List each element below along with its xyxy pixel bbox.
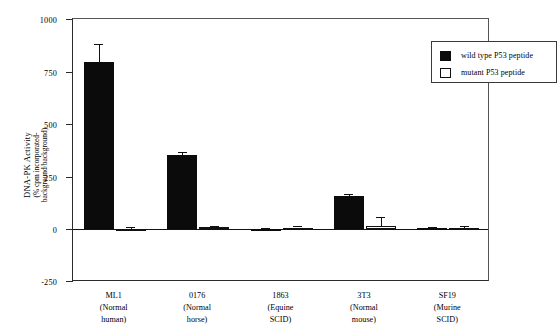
bar-0176-mutant [199, 227, 229, 229]
bar-3T3-mutant [366, 226, 396, 229]
y-tick-750: 750 [66, 72, 73, 73]
y-tick-minus250: -250 [66, 281, 73, 282]
y-tick-250: 250 [66, 177, 73, 178]
legend: wild type P53 peptide mutant P53 peptide [431, 41, 557, 83]
plot-area: 1000 750 500 250 0 -250 wild type P53 pe… [72, 18, 489, 281]
y-tick-label-minus250: -250 [41, 277, 57, 286]
bar-ML1-wild-type [84, 62, 114, 229]
x-label-name: ML1 [72, 290, 155, 302]
error-cap-0176-mutant [210, 226, 219, 227]
bar-0176-wild-type [167, 155, 197, 230]
x-label-line3: SCID) [406, 314, 489, 326]
x-label-name: 3T3 [322, 290, 405, 302]
error-cap-3T3-mutant [376, 217, 385, 218]
y-axis-title: DNA-PK Activity (% cpm incorporated- bac… [14, 95, 58, 235]
bar-3T3-wild-type [334, 196, 364, 230]
x-label-line3: human) [72, 314, 155, 326]
legend-item-wild-type: wild type P53 peptide [440, 49, 533, 62]
open-square-icon [440, 68, 451, 78]
error-cap-SF19-mutant [460, 226, 469, 227]
y-tick-label-500: 500 [44, 121, 57, 130]
error-cap-ML1-wild-type [94, 44, 103, 45]
x-label-line2: (Normal [322, 302, 405, 314]
legend-item-mutant: mutant P53 peptide [440, 66, 525, 79]
y-tick-label-1000: 1000 [40, 16, 57, 25]
x-label-line3: SCID) [239, 314, 322, 326]
y-tick-1000: 1000 [66, 19, 73, 20]
x-axis-label-0176: 0176(Normalhorse) [155, 290, 238, 326]
error-cap-SF19-wild-type [428, 227, 437, 228]
legend-label-wild-type: wild type P53 peptide [461, 51, 533, 60]
x-label-name: SF19 [406, 290, 489, 302]
x-axis-label-ML1: ML1(Normalhuman) [72, 290, 155, 326]
y-tick-500: 500 [66, 124, 73, 125]
x-label-line2: (Normal [72, 302, 155, 314]
x-label-line2: (Equine [239, 302, 322, 314]
legend-label-mutant: mutant P53 peptide [461, 68, 525, 77]
bar-1863-mutant [283, 228, 313, 230]
y-tick-0: 0 [66, 229, 73, 230]
error-cap-ML1-mutant [126, 227, 135, 228]
y-tick-label-250: 250 [44, 173, 57, 182]
error-cap-1863-mutant [293, 226, 302, 227]
x-label-line2: (Normal [155, 302, 238, 314]
x-label-line3: mouse) [322, 314, 405, 326]
x-axis-label-3T3: 3T3(Normalmouse) [322, 290, 405, 326]
error-cap-0176-wild-type [178, 152, 187, 153]
x-axis-label-1863: 1863(EquineSCID) [239, 290, 322, 326]
y-tick-label-750: 750 [44, 68, 57, 77]
bar-ML1-mutant [116, 229, 146, 231]
y-axis-title-line3: background/background) [41, 128, 50, 202]
bar-SF19-wild-type [417, 228, 447, 230]
x-label-line3: horse) [155, 314, 238, 326]
filled-square-icon [440, 51, 451, 61]
bar-SF19-mutant [449, 228, 479, 230]
y-tick-label-0: 0 [53, 226, 57, 235]
x-label-name: 0176 [155, 290, 238, 302]
x-axis-label-SF19: SF19(MurineSCID) [406, 290, 489, 326]
error-bar-3T3-mutant [381, 217, 382, 226]
x-label-name: 1863 [239, 290, 322, 302]
error-cap-3T3-wild-type [344, 194, 353, 195]
error-bar-ML1-wild-type [99, 44, 100, 62]
x-label-line2: (Murine [406, 302, 489, 314]
error-cap-1863-wild-type [261, 228, 270, 229]
